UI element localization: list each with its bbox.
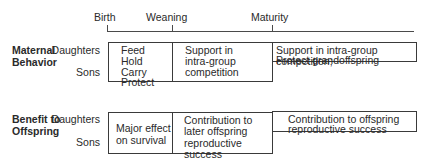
cell-text: Protect grandoffspring	[276, 55, 379, 66]
cell-text: reproductive success	[288, 124, 387, 135]
row-label-sons: Sons	[76, 66, 100, 78]
timeline-axis	[107, 31, 414, 32]
section-title-line2: Offspring	[12, 125, 59, 137]
timeline-label-birth: Birth	[94, 11, 116, 23]
row-label-daughters: Daughters	[52, 113, 100, 125]
row-label-daughters: Daughters	[52, 44, 100, 56]
timeline-label-maturity: Maturity	[251, 11, 288, 23]
cell-after-maturity: Support in intra-group competition; Prot…	[272, 42, 417, 62]
section-title-line2: Behavior	[12, 56, 57, 68]
section-title-line1: Maternal	[12, 44, 55, 56]
timeline-tick-weaning	[172, 25, 173, 32]
timeline-tick-maturity	[272, 25, 273, 32]
timeline-tick-birth	[107, 25, 108, 32]
cell-birth-to-weaning: Major effect on survival	[108, 112, 173, 154]
cell-weaning-to-maturity: Contribution to later offspring reproduc…	[172, 112, 273, 154]
cell-text: on survival	[116, 135, 166, 146]
cell-text: reproductive success	[184, 138, 272, 160]
cell-after-maturity: Contribution to offspring reproductive s…	[272, 111, 417, 132]
cell-text: later offspring	[184, 126, 247, 137]
cell-birth-to-weaning: Feed Hold Carry Protect	[108, 42, 173, 82]
row-label-sons: Sons	[76, 136, 100, 148]
cell-text: competition	[185, 67, 239, 78]
timeline-label-weaning: Weaning	[146, 11, 187, 23]
cell-weaning-to-maturity: Support in intra-group competition	[172, 42, 273, 82]
cell-text: Major effect	[116, 123, 171, 134]
cell-text: Protect	[121, 77, 154, 88]
